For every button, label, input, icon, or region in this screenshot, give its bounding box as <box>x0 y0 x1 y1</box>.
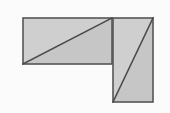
horizontal-rectangle <box>23 18 112 64</box>
vertical-rectangle <box>113 18 153 102</box>
geometry-figure-canvas <box>0 0 170 113</box>
geometry-figure <box>0 0 170 113</box>
